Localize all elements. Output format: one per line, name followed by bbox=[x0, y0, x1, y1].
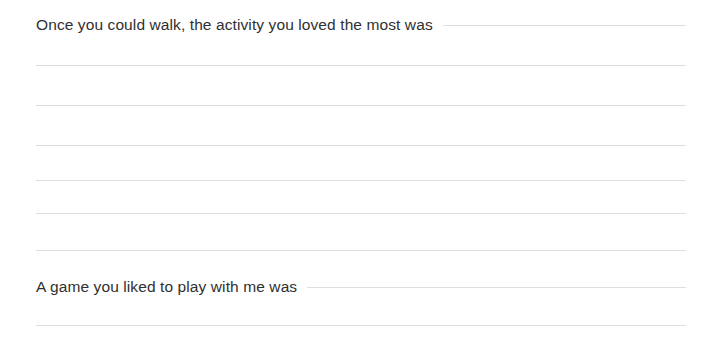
prompt-game-you-liked: A game you liked to play with me was bbox=[36, 277, 686, 297]
prompt-activity-you-loved-text: Once you could walk, the activity you lo… bbox=[36, 15, 433, 35]
answer-area-game[interactable] bbox=[0, 300, 714, 350]
answer-area-activity[interactable] bbox=[0, 30, 714, 265]
prompt-game-you-liked-text: A game you liked to play with me was bbox=[36, 277, 297, 297]
prompt-activity-you-loved-fill-rule[interactable] bbox=[443, 25, 686, 26]
journal-page: Once you could walk, the activity you lo… bbox=[0, 0, 714, 353]
prompt-game-you-liked-fill-rule[interactable] bbox=[307, 287, 686, 288]
prompt-activity-you-loved: Once you could walk, the activity you lo… bbox=[36, 15, 686, 35]
